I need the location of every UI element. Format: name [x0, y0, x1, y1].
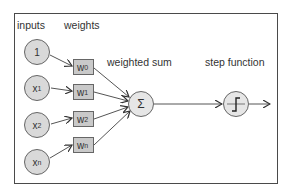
input-subscript: 1 [38, 85, 42, 92]
input-node-xn: xn [24, 149, 50, 175]
weight-subscript: 2 [84, 116, 88, 123]
input-label: 1 [34, 47, 40, 58]
sum-node: Σ [128, 91, 154, 117]
step-function-icon [224, 92, 248, 116]
weight-subscript: 0 [84, 64, 88, 71]
weight-subscript: 1 [84, 89, 88, 96]
input-subscript: 2 [38, 122, 42, 129]
input-node-bias: 1 [24, 39, 50, 65]
sigma-icon: Σ [137, 97, 144, 111]
weight-label: w [77, 114, 84, 125]
step-function-node [223, 91, 249, 117]
input-node-x1: x1 [24, 75, 50, 101]
weight-box-w0: w0 [73, 59, 94, 75]
weight-label: w [77, 140, 84, 151]
input-subscript: n [38, 159, 42, 166]
weight-box-w1: w1 [73, 84, 94, 100]
weight-subscript: n [84, 142, 88, 149]
weight-box-w2: w2 [73, 111, 94, 127]
input-node-x2: x2 [24, 112, 50, 138]
weight-label: w [77, 87, 84, 98]
weight-box-wn: wn [73, 137, 94, 153]
weight-label: w [77, 62, 84, 73]
